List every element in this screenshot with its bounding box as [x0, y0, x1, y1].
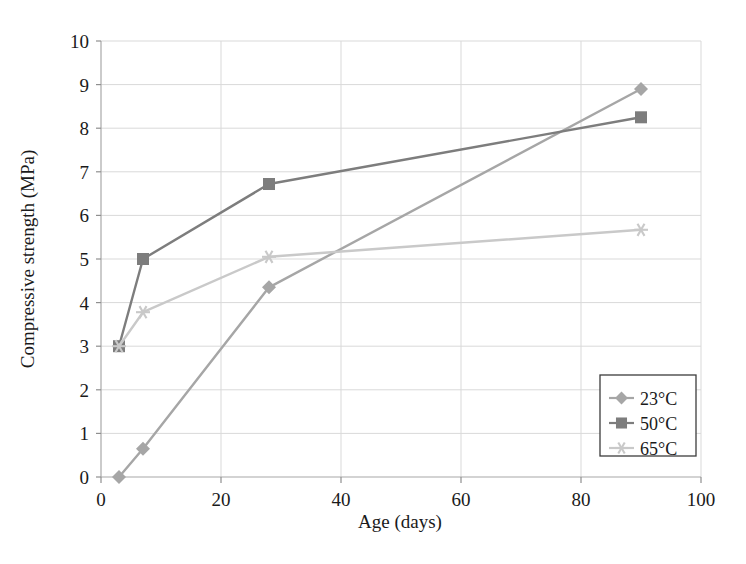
x-tick-label: 60 [452, 489, 471, 510]
legend-item-label: 65°C [640, 439, 677, 459]
series-line [119, 117, 641, 346]
y-tick-labels: 012345678910 [70, 31, 90, 488]
y-tick-label: 10 [70, 31, 89, 52]
x-tick-label: 80 [572, 489, 591, 510]
y-axis-title: Compressive strength (MPa) [17, 150, 39, 368]
legend[interactable]: 23°C50°C65°C [600, 375, 696, 459]
x-tick-label: 0 [96, 489, 106, 510]
x-tick-label: 40 [332, 489, 351, 510]
y-tick-label: 7 [80, 162, 90, 183]
x-tick-labels: 020406080100 [96, 489, 715, 510]
series-line [119, 89, 641, 477]
y-tick-label: 8 [80, 118, 90, 139]
x-tick-label: 100 [687, 489, 716, 510]
legend-item-label: 23°C [640, 389, 677, 409]
x-tick-label: 20 [212, 489, 231, 510]
marker-asterisk [136, 306, 150, 318]
marker-asterisk [262, 251, 276, 263]
y-tick-label: 0 [80, 467, 90, 488]
y-tick-label: 9 [80, 75, 90, 96]
legend-items[interactable]: 23°C50°C65°C [609, 389, 677, 459]
marker-square [263, 178, 275, 190]
y-tick-label: 5 [80, 249, 90, 270]
y-tick-label: 2 [80, 380, 90, 401]
series-50C [113, 111, 647, 352]
marker-square [616, 417, 627, 428]
series-line [119, 230, 641, 346]
series-layer [112, 82, 648, 484]
y-tick-label: 3 [80, 336, 90, 357]
y-tick-label: 1 [80, 423, 90, 444]
marker-square [635, 111, 647, 123]
series-23C [112, 82, 648, 484]
y-tick-label: 4 [80, 293, 90, 314]
chart-figure: 020406080100 012345678910 Age (days) Com… [0, 0, 746, 564]
legend-item-label: 50°C [640, 414, 677, 434]
marker-diamond [634, 82, 648, 96]
y-tick-label: 6 [80, 205, 90, 226]
marker-square [137, 253, 149, 265]
series-65C [112, 224, 648, 353]
x-axis-title: Age (days) [358, 511, 442, 533]
chart-canvas: 020406080100 012345678910 Age (days) Com… [0, 0, 746, 564]
marker-asterisk [634, 224, 648, 236]
